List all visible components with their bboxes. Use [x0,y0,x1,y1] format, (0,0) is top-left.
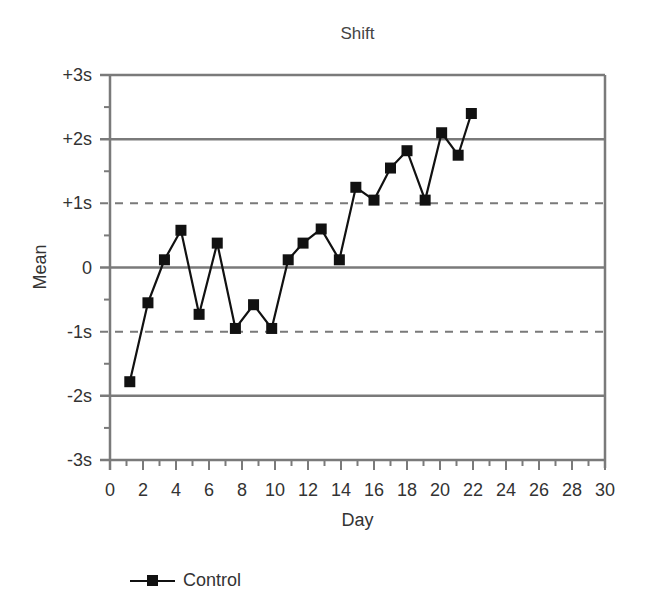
x-tick-label: 14 [331,480,351,501]
x-tick-label: 26 [529,480,549,501]
chart-title: Shift [110,24,605,44]
data-point-marker [194,309,205,320]
data-point-marker [266,323,277,334]
x-tick-label: 28 [562,480,582,501]
data-point-marker [212,238,223,249]
x-tick-label: 20 [430,480,450,501]
legend: Control [130,570,241,591]
data-point-marker [298,238,309,249]
x-tick-label: 6 [204,480,214,501]
x-tick-label: 12 [298,480,318,501]
x-tick-label: 24 [496,480,516,501]
data-point-marker [420,195,431,206]
y-tick-label: +1s [0,193,92,214]
square-marker-icon [147,575,158,586]
x-tick-label: 2 [138,480,148,501]
data-point-marker [385,163,396,174]
data-point-marker [453,150,464,161]
legend-line-icon [130,580,175,582]
x-tick-label: 30 [595,480,615,501]
data-point-marker [334,254,345,265]
data-point-marker [248,299,259,310]
data-point-marker [142,297,153,308]
x-tick-label: 8 [237,480,247,501]
x-tick-label: 4 [171,480,181,501]
data-point-marker [230,323,241,334]
data-point-marker [402,145,413,156]
data-point-marker [283,254,294,265]
data-point-marker [350,182,361,193]
data-point-marker [159,254,170,265]
y-tick-label: +2s [0,129,92,150]
y-tick-label: -3s [0,450,92,471]
x-tick-label: 10 [265,480,285,501]
data-point-marker [124,376,135,387]
data-point-marker [466,108,477,119]
y-tick-label: -1s [0,321,92,342]
y-tick-label: 0 [0,257,92,278]
data-point-marker [175,225,186,236]
legend-label-control: Control [183,570,241,591]
y-tick-label: +3s [0,65,92,86]
x-tick-label: 16 [364,480,384,501]
x-tick-label: 0 [105,480,115,501]
data-point-marker [316,224,327,235]
data-point-marker [369,195,380,206]
x-tick-label: 22 [463,480,483,501]
y-tick-label: -2s [0,385,92,406]
x-axis-label: Day [110,510,605,531]
data-point-marker [436,127,447,138]
x-tick-label: 18 [397,480,417,501]
